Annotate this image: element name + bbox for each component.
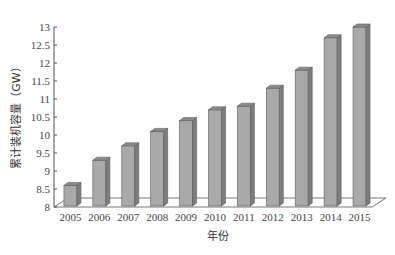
x-tick-label: 2005 [59, 211, 82, 223]
y-axis: 88.599.51010.51111.51212.513 [31, 21, 57, 213]
x-tick-label: 2009 [175, 211, 198, 223]
x-tick-label: 2014 [320, 211, 343, 223]
bar [353, 24, 370, 206]
y-tick-label: 10 [39, 129, 51, 141]
x-tick-label: 2006 [88, 211, 111, 223]
x-tick-label: 2012 [262, 211, 284, 223]
bars [64, 24, 370, 206]
y-tick-label: 10.5 [31, 111, 51, 123]
x-axis-title: 年份 [207, 229, 229, 243]
bar [266, 85, 283, 206]
bar [295, 67, 312, 206]
y-tick-label: 8 [45, 201, 51, 213]
y-tick-label: 12 [39, 57, 50, 69]
x-tick-label: 2013 [291, 211, 314, 223]
y-tick-label: 13 [39, 21, 51, 33]
x-tick-label: 2015 [349, 211, 372, 223]
bar-chart: 88.599.51010.51111.51212.513 20052006200… [0, 0, 395, 255]
y-tick-label: 11.5 [31, 75, 50, 87]
y-axis-title: 累计装机容量（GW） [9, 61, 23, 168]
bar [93, 157, 110, 206]
y-tick-label: 11 [39, 93, 50, 105]
x-axis-labels: 2005200620072008200920102011201220132014… [59, 211, 371, 223]
bar [324, 35, 341, 206]
y-tick-label: 12.5 [31, 39, 51, 51]
bar [122, 143, 139, 206]
bar [151, 128, 168, 206]
bar [64, 182, 81, 206]
x-tick-label: 2011 [233, 211, 255, 223]
x-tick-label: 2007 [117, 211, 140, 223]
x-tick-label: 2010 [204, 211, 227, 223]
x-tick-label: 2008 [146, 211, 169, 223]
bar [237, 103, 254, 206]
y-tick-label: 8.5 [36, 183, 50, 195]
bar [180, 118, 197, 206]
y-tick-label: 9 [45, 165, 51, 177]
bar [209, 107, 226, 206]
y-tick-label: 9.5 [36, 147, 50, 159]
